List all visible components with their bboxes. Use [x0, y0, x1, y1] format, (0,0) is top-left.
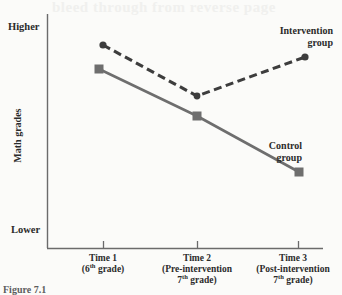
tick-1-sub-post: grade) [188, 275, 217, 285]
intervention-group-marker [194, 93, 201, 100]
tick-0-sub-post: grade) [96, 264, 125, 274]
control-group-annotation: Control group [222, 140, 302, 163]
tick-0-name: Time 1 [62, 253, 144, 264]
x-axis-ticks [104, 241, 299, 248]
tick-2-sub-line1: (Post-intervention [245, 264, 341, 275]
tick-1-sub-line2: 7th grade) [145, 275, 249, 286]
series-intervention-group [99, 41, 308, 99]
x-axis-tick-label-time-2: Time 2 (Pre-intervention 7th grade) [145, 253, 249, 287]
x-axis-tick-label-time-1: Time 1 (6th grade) [62, 253, 144, 275]
tick-0-sub: (6th grade) [62, 264, 144, 275]
tick-0-sub-pre: (6 [82, 264, 90, 274]
intervention-group-marker [301, 53, 308, 60]
intervention-group-annotation: Intervention group [225, 25, 333, 48]
tick-2-sub-line2: 7th grade) [245, 275, 341, 286]
intervention-label-line2: group [308, 37, 333, 48]
tick-1-sub-line1: (Pre-intervention [145, 264, 249, 275]
tick-2-sub-post: grade) [284, 275, 313, 285]
intervention-group-line [103, 45, 305, 96]
control-label-line2: group [277, 152, 302, 163]
intervention-group-marker [99, 41, 106, 48]
control-group-marker [95, 65, 104, 74]
y-axis-title: Math grades [12, 101, 23, 171]
x-axis-tick-label-time-3: Time 3 (Post-intervention 7th grade) [245, 253, 341, 287]
control-group-marker [193, 112, 202, 121]
figure-caption: Figure 7.1 [3, 284, 46, 295]
tick-2-name: Time 3 [245, 253, 341, 264]
control-label-line1: Control [269, 140, 302, 151]
control-group-marker [295, 168, 304, 177]
tick-1-name: Time 2 [145, 253, 249, 264]
y-axis-bottom-label: Lower [11, 224, 40, 236]
figure-container: bleed through from reverse page Higher L… [0, 0, 342, 295]
y-axis-top-label: Higher [8, 21, 40, 33]
intervention-label-line1: Intervention [280, 25, 333, 36]
